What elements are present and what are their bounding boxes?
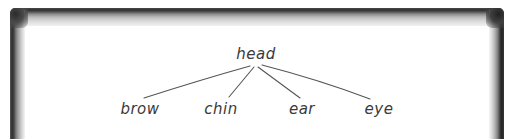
tree-child-node-chin: chin — [204, 102, 237, 117]
edge-head-ear — [258, 67, 300, 98]
tree-edges — [0, 0, 514, 139]
whiteboard: head brow chin ear eye — [0, 0, 514, 139]
tree-child-node-ear: ear — [289, 102, 315, 117]
tree-child-node-brow: brow — [120, 102, 159, 117]
tree-child-node-eye: eye — [365, 102, 394, 117]
edge-head-chin — [229, 67, 254, 97]
tree-root-node: head — [236, 47, 275, 62]
edge-head-brow — [144, 66, 250, 98]
